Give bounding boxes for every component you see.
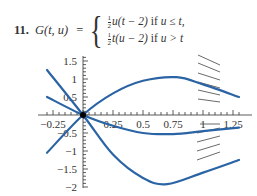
slope-segment — [198, 63, 220, 72]
y-tick-label: −1 — [65, 145, 77, 157]
y-tick-label: −2 — [65, 181, 77, 193]
chart: −0.250.250.50.7511.251.510.5−0.5−1−1.5−2 — [0, 0, 257, 196]
slope-segment — [197, 152, 220, 160]
slope-segment — [198, 55, 220, 65]
slope-segment — [197, 136, 220, 142]
x-tick-label: 0.75 — [163, 118, 183, 130]
slope-segment — [198, 73, 220, 80]
slope-segment — [198, 90, 220, 95]
x-tick-label: 0.5 — [136, 118, 150, 130]
origin-point — [80, 112, 86, 118]
y-tick-label: 1 — [72, 73, 78, 85]
slope-segment — [197, 144, 220, 151]
y-tick-label: 1.5 — [63, 55, 77, 67]
x-tick-label: 1 — [200, 118, 206, 130]
slope-segment — [198, 99, 220, 102]
slope-field — [197, 55, 220, 160]
y-tick-label: −1.5 — [57, 163, 77, 175]
